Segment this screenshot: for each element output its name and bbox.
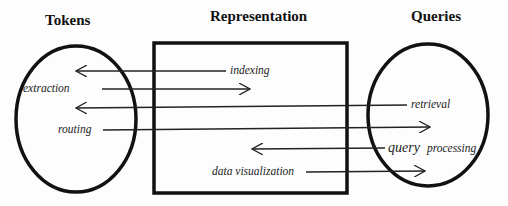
- label-data-visualization: data visualization: [212, 165, 294, 177]
- label-query-processing: query processing: [388, 138, 477, 155]
- tokens-ellipse: [16, 46, 136, 192]
- diagram-canvas: Tokens Representation Queries indexing e…: [0, 0, 508, 206]
- title-representation: Representation: [210, 8, 308, 24]
- routing-arrow: [103, 127, 430, 130]
- label-extraction: extraction: [23, 82, 70, 94]
- title-tokens: Tokens: [45, 12, 90, 28]
- query-processing-arrow: [252, 148, 385, 149]
- label-query-word: query: [388, 140, 421, 155]
- label-indexing: indexing: [230, 64, 270, 77]
- queries-ellipse: [368, 44, 488, 186]
- label-retrieval: retrieval: [411, 98, 450, 110]
- data-visualization-arrow: [306, 171, 425, 172]
- diagram-svg: Tokens Representation Queries indexing e…: [0, 0, 508, 206]
- retrieval-arrow: [76, 105, 407, 108]
- label-routing: routing: [58, 123, 92, 136]
- title-queries: Queries: [411, 8, 461, 24]
- label-processing-word: processing: [426, 142, 477, 155]
